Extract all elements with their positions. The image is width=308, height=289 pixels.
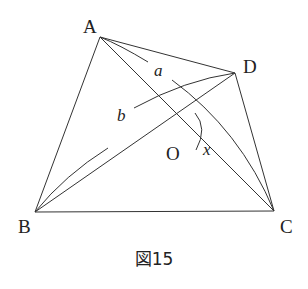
segment-DC [235, 73, 274, 211]
arc-b-upper [134, 73, 235, 108]
angle-x-arc [195, 113, 202, 150]
label-b: b [117, 106, 126, 125]
label-O: O [166, 143, 180, 164]
segment-AD [100, 37, 235, 73]
segment-AB [35, 37, 100, 212]
label-B: B [18, 216, 31, 237]
label-x: x [202, 140, 211, 159]
figure-caption: 図15 [0, 245, 308, 270]
arc-b-lower [35, 148, 108, 212]
label-D: D [243, 56, 257, 77]
label-a: a [154, 61, 163, 80]
label-C: C [280, 216, 293, 237]
arc-a-upper [100, 37, 148, 62]
segment-BC [35, 211, 274, 212]
label-A: A [83, 16, 97, 37]
arc-a-lower [172, 80, 274, 211]
